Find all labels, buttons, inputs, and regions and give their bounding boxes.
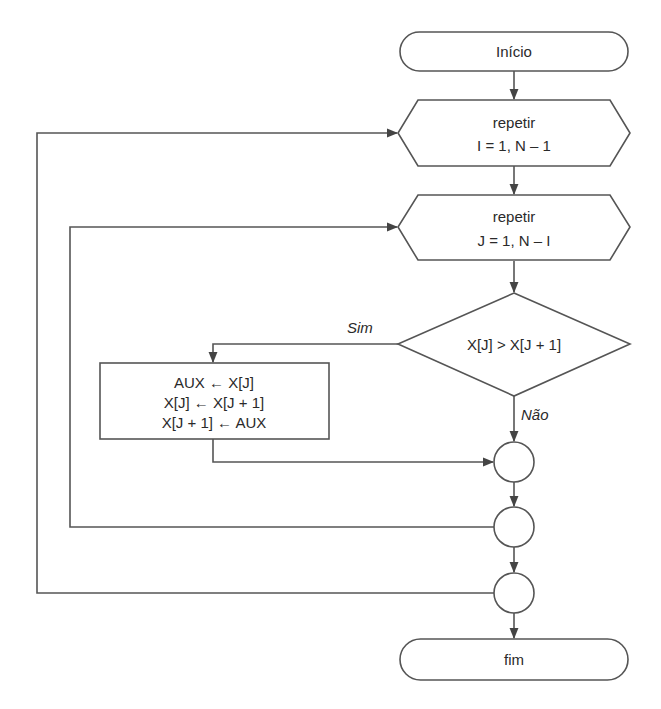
end-terminal: fim xyxy=(400,639,628,680)
loop-i-keyword: repetir xyxy=(493,114,536,131)
swap-line-1: AUX ← X[J] xyxy=(174,374,254,391)
swap-line-3: X[J + 1] ← AUX xyxy=(162,414,267,431)
loop-j-range: J = 1, N – I xyxy=(478,232,551,249)
edge-label-yes: Sim xyxy=(347,319,373,336)
edge-label-no: Não xyxy=(521,406,549,423)
end-loop-j-connector xyxy=(494,507,534,547)
swap-process-box: AUX ← X[J] X[J] ← X[J + 1] X[J + 1] ← AU… xyxy=(100,363,329,439)
join-if-connector xyxy=(494,442,534,482)
swap-line-2: X[J] ← X[J + 1] xyxy=(164,394,264,411)
loop-j-keyword: repetir xyxy=(493,208,536,225)
end-loop-i-connector xyxy=(494,573,534,613)
loop-i-range: I = 1, N – 1 xyxy=(477,137,551,154)
flowchart-canvas: Início repetir I = 1, N – 1 repetir J = … xyxy=(0,0,661,709)
loop-i-hexagon: repetir I = 1, N – 1 xyxy=(398,100,630,166)
start-label: Início xyxy=(496,43,532,60)
decision-condition: X[J] > X[J + 1] xyxy=(467,336,561,353)
edge-swap-to-join xyxy=(213,439,493,462)
loop-j-hexagon: repetir J = 1, N – I xyxy=(398,195,630,260)
decision-diamond: X[J] > X[J + 1] xyxy=(398,293,630,396)
end-label: fim xyxy=(504,651,524,668)
edge-decision-yes-to-swap xyxy=(213,344,398,362)
start-terminal: Início xyxy=(400,32,628,71)
